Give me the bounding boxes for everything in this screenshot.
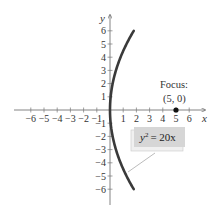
- y-tick-label: 2: [101, 78, 106, 89]
- y-tick-label: −1: [95, 118, 106, 129]
- x-tick-label: −6: [25, 113, 36, 124]
- focus-label: Focus:: [160, 79, 188, 90]
- y-axis-label: y: [99, 12, 105, 24]
- x-tick-label: −2: [78, 113, 89, 124]
- y-tick-label: −4: [95, 157, 106, 168]
- y-tick-label: 6: [101, 25, 106, 36]
- equation-callout: y2= 20x: [128, 127, 185, 172]
- x-tick-label: −5: [39, 113, 50, 124]
- y-tick-label: −6: [95, 184, 106, 195]
- parabola-graph: −6−5−4−3−2−1123456 654321−1−2−3−4−5−6 x …: [0, 0, 220, 214]
- focus-point: [173, 107, 178, 112]
- focus-coords: (5, 0): [163, 93, 186, 105]
- y-tick-label: 5: [101, 39, 106, 50]
- equation-label: y2= 20x: [139, 131, 176, 143]
- y-tick-label: −3: [95, 144, 106, 155]
- y-tick-label: 3: [101, 65, 106, 76]
- x-tick-label: 1: [121, 113, 126, 124]
- x-axis-label: x: [201, 112, 207, 124]
- x-tick-label: −3: [65, 113, 76, 124]
- x-tick-label: 4: [160, 113, 165, 124]
- y-tick-label: −2: [95, 131, 106, 142]
- y-tick-label: −5: [95, 171, 106, 182]
- x-tick-label: 2: [134, 113, 139, 124]
- x-tick-label: −4: [52, 113, 63, 124]
- x-tick-label: 6: [187, 113, 192, 124]
- callout-leader-line: [128, 153, 155, 172]
- x-tick-label: 3: [147, 113, 152, 124]
- y-tick-label: 1: [101, 91, 106, 102]
- x-tick-label: 5: [174, 113, 179, 124]
- y-tick-label: 4: [101, 52, 106, 63]
